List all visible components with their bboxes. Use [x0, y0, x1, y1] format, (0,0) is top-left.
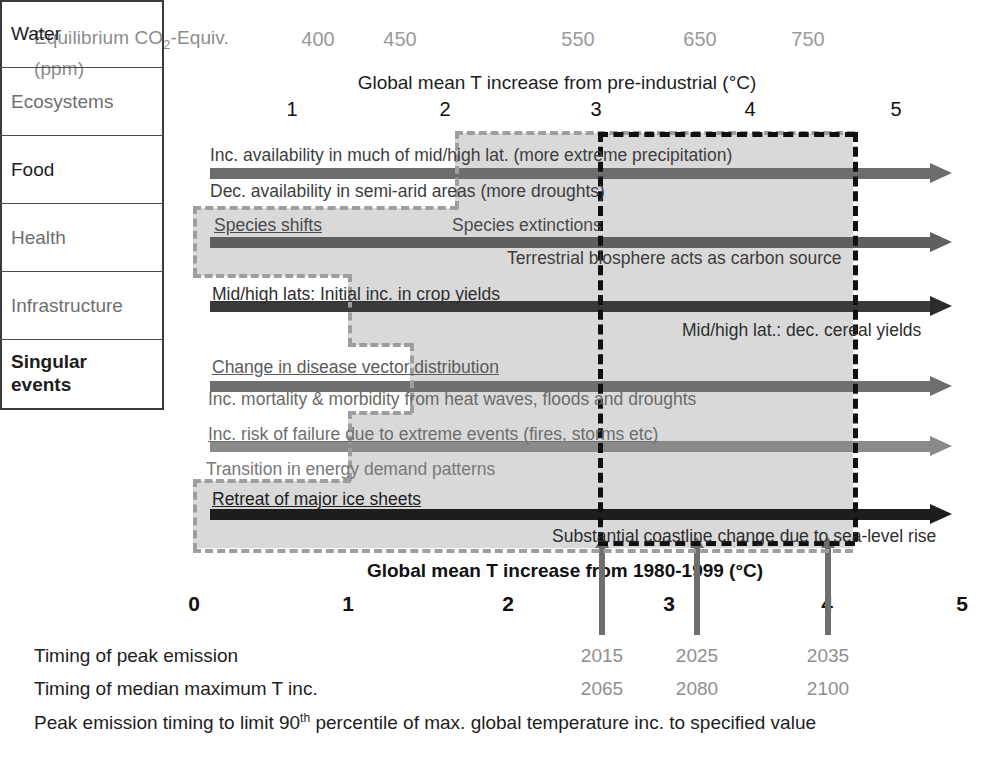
impact-text-2: Species shifts: [214, 215, 322, 235]
year-arrow-shaft-2025: [694, 546, 700, 635]
co2-tick-400: 400: [288, 28, 348, 51]
grey-dash-bottom-health-step: [348, 411, 412, 415]
bottom-axis-title: Global mean T increase from 1980-1999 (°…: [245, 560, 885, 582]
singular-events-arrow: [210, 509, 952, 520]
category-label: Infrastructure: [11, 294, 123, 317]
category-row-water: Water: [0, 0, 164, 68]
co2-subscript: 2: [163, 37, 170, 52]
impact-text-8: Inc. mortality & morbidity from heat wav…: [208, 389, 696, 409]
impact-text-0: Inc. availability in much of mid/high la…: [210, 145, 732, 165]
impact-text-3: Species extinctions: [452, 215, 602, 235]
grey-dash-left-ecosystems: [193, 206, 197, 276]
category-row-infrastructure: Infrastructure: [0, 272, 164, 340]
impact-text-9: Inc. risk of failure due to extreme even…: [208, 424, 658, 444]
median-max-year-2065: 2065: [565, 678, 639, 700]
bottom-tick-0: 0: [169, 592, 219, 616]
black-dash-top: [598, 132, 855, 137]
category-label: Health: [11, 226, 66, 249]
water-arrow-head: [930, 163, 952, 183]
climate-impacts-diagram: Equilibrium CO2-Equiv. (ppm) 40045055065…: [0, 0, 1006, 763]
ecosystems-arrow: [210, 237, 952, 248]
grey-dash-top-singular-step: [193, 479, 351, 483]
peak-emission-year-2025: 2025: [660, 645, 734, 667]
top-tick-2: 2: [420, 98, 470, 121]
food-arrow-head: [930, 296, 952, 316]
peak-emission-year-2015: 2015: [565, 645, 639, 667]
ecosystems-arrow-shaft: [210, 237, 930, 248]
median-max-year-2100: 2100: [791, 678, 865, 700]
top-tick-1: 1: [267, 98, 317, 121]
category-label: Singularevents: [11, 350, 87, 396]
category-label: Ecosystems: [11, 90, 113, 113]
impact-text-12: Substantial coastline change due to sea-…: [552, 526, 936, 546]
co2-tick-650: 650: [670, 28, 730, 51]
grey-dash-top-ecosystems: [193, 206, 458, 210]
health-arrow-head: [930, 376, 952, 396]
co2-tick-450: 450: [370, 28, 430, 51]
water-arrow-shaft: [210, 168, 930, 179]
impact-text-5: Mid/high lats: Initial inc. in crop yiel…: [212, 284, 500, 304]
grey-dash-bottom-singular: [193, 549, 853, 553]
top-tick-4: 4: [725, 98, 775, 121]
category-label: Water: [11, 22, 61, 45]
impact-text-1: Dec. availability in semi-arid areas (mo…: [210, 181, 605, 201]
infrastructure-arrow-head: [930, 436, 952, 456]
grey-dash-bottom-ecosystems: [193, 274, 351, 278]
year-arrow-shaft-2035: [825, 546, 831, 635]
category-row-ecosystems: Ecosystems: [0, 68, 164, 136]
impact-text-6: Mid/high lat.: dec. cereal yields: [682, 320, 921, 340]
ordinal-superscript: th: [300, 711, 310, 725]
year-arrow-shaft-2015: [599, 546, 605, 635]
footnote-peak-emission-label: Timing of peak emission: [34, 645, 238, 667]
singular-events-arrow-shaft: [210, 509, 930, 520]
bottom-tick-1: 1: [323, 592, 373, 616]
category-label: Food: [11, 158, 54, 181]
footnote-percentile-note: Peak emission timing to limit 90th perce…: [34, 711, 816, 734]
singular-events-arrow-head: [930, 504, 952, 524]
bottom-tick-3: 3: [644, 592, 694, 616]
co2-tick-550: 550: [548, 28, 608, 51]
median-max-year-2080: 2080: [660, 678, 734, 700]
top-tick-3: 3: [571, 98, 621, 121]
impact-text-7: Change in disease vector distribution: [212, 357, 499, 377]
peak-emission-year-2035: 2035: [791, 645, 865, 667]
grey-dash-left-singular: [193, 479, 197, 551]
top-axis-title: Global mean T increase from pre-industri…: [247, 72, 867, 94]
water-arrow: [210, 168, 952, 179]
impact-text-10: Transition in energy demand patterns: [206, 459, 495, 479]
category-row-singular: Singularevents: [0, 340, 164, 406]
bottom-tick-5: 5: [937, 592, 987, 616]
category-row-health: Health: [0, 204, 164, 272]
ecosystems-arrow-head: [930, 232, 952, 252]
impact-text-4: Terrestrial biosphere acts as carbon sou…: [507, 248, 842, 268]
footnote-median-max-label: Timing of median maximum T inc.: [34, 678, 318, 700]
grey-dash-top-health-step: [348, 343, 412, 347]
category-row-food: Food: [0, 136, 164, 204]
bottom-tick-2: 2: [483, 592, 533, 616]
category-table: WaterEcosystemsFoodHealthInfrastructureS…: [0, 0, 164, 410]
impact-text-11: Retreat of major ice sheets: [212, 489, 421, 509]
top-tick-5: 5: [871, 98, 921, 121]
co2-tick-750: 750: [778, 28, 838, 51]
